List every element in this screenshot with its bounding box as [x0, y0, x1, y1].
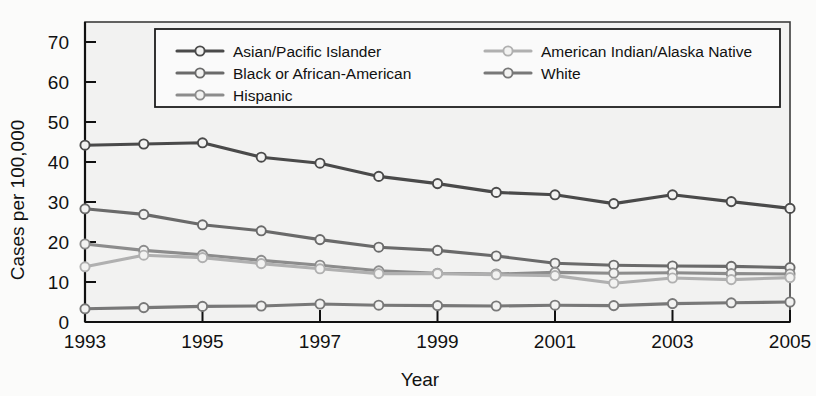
data-point-marker [727, 275, 736, 284]
data-point-marker [609, 269, 618, 278]
data-point-marker [492, 270, 501, 279]
data-point-marker [433, 179, 442, 188]
data-point-marker [550, 259, 559, 268]
data-point-marker [374, 269, 383, 278]
data-point-marker [257, 259, 266, 268]
data-point-marker [198, 302, 207, 311]
data-point-marker [315, 235, 324, 244]
y-tick-label: 70 [48, 32, 69, 53]
legend-item-label: Hispanic [233, 87, 293, 104]
data-point-marker [139, 139, 148, 148]
data-point-marker [139, 303, 148, 312]
data-point-marker [727, 197, 736, 206]
line-chart-figure: 010203040506070 199319951997199920012003… [0, 0, 816, 396]
data-point-marker [609, 279, 618, 288]
data-point-marker [550, 271, 559, 280]
data-point-marker [785, 204, 794, 213]
data-point-marker [668, 273, 677, 282]
data-point-marker [139, 251, 148, 260]
data-point-marker [433, 246, 442, 255]
x-tick-label: 2001 [534, 331, 576, 352]
y-tick-label: 30 [48, 192, 69, 213]
legend-swatch-marker [195, 46, 204, 55]
y-tick-label: 40 [48, 152, 69, 173]
x-tick-label: 1993 [64, 331, 106, 352]
legend-swatch-marker [503, 46, 512, 55]
data-point-marker [139, 210, 148, 219]
legend-item-label: Asian/Pacific Islander [233, 43, 381, 60]
data-point-marker [550, 190, 559, 199]
data-point-marker [257, 153, 266, 162]
data-point-marker [315, 264, 324, 273]
data-point-marker [80, 304, 89, 313]
y-axis-label: Cases per 100,000 [7, 120, 28, 281]
data-point-marker [492, 251, 501, 260]
y-tick-label: 50 [48, 112, 69, 133]
data-point-marker [198, 138, 207, 147]
data-point-marker [80, 262, 89, 271]
data-point-marker [727, 298, 736, 307]
data-point-marker [257, 301, 266, 310]
data-point-marker [80, 204, 89, 213]
data-point-marker [550, 301, 559, 310]
x-tick-label: 1997 [299, 331, 341, 352]
x-tick-label: 1995 [181, 331, 223, 352]
data-point-marker [257, 226, 266, 235]
y-tick-label: 20 [48, 232, 69, 253]
data-point-marker [492, 188, 501, 197]
data-point-marker [80, 239, 89, 248]
data-point-marker [80, 141, 89, 150]
y-tick-label: 0 [58, 312, 69, 333]
y-tick-label: 60 [48, 72, 69, 93]
data-point-marker [374, 301, 383, 310]
x-tick-label: 2003 [651, 331, 693, 352]
legend-swatch-marker [195, 90, 204, 99]
data-point-marker [668, 190, 677, 199]
chart-svg: 010203040506070 199319951997199920012003… [0, 0, 816, 396]
legend-item-label: American Indian/Alaska Native [541, 43, 752, 60]
legend-swatch-marker [195, 68, 204, 77]
data-point-marker [668, 299, 677, 308]
x-axis-label: Year [401, 369, 440, 390]
legend-item-label: White [541, 65, 581, 82]
legend-swatch-marker [503, 68, 512, 77]
legend-item-label: Black or African-American [233, 65, 411, 82]
data-point-marker [492, 301, 501, 310]
data-point-marker [785, 297, 794, 306]
data-point-marker [315, 159, 324, 168]
data-point-marker [374, 172, 383, 181]
data-point-marker [198, 220, 207, 229]
data-point-marker [609, 199, 618, 208]
data-point-marker [315, 299, 324, 308]
data-point-marker [198, 253, 207, 262]
chart-legend: Asian/Pacific IslanderBlack or African-A… [155, 29, 780, 107]
data-point-marker [785, 273, 794, 282]
data-point-marker [433, 301, 442, 310]
data-point-marker [433, 269, 442, 278]
data-point-marker [609, 301, 618, 310]
y-tick-label: 10 [48, 272, 69, 293]
x-tick-label: 1999 [416, 331, 458, 352]
x-tick-label: 2005 [769, 331, 811, 352]
data-point-marker [374, 243, 383, 252]
